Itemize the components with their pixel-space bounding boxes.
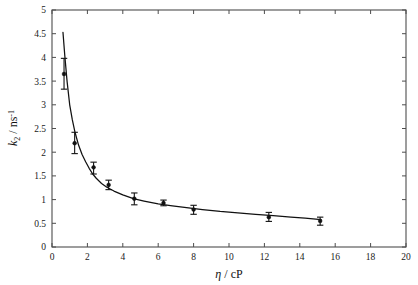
x-axis-label: η / cP [215, 267, 243, 281]
viscosity-rate-scatter-chart: 02468101214161820 00.511.522.533.544.55 … [0, 0, 418, 285]
data-point-marker [162, 201, 166, 205]
data-point-marker [107, 183, 111, 187]
data-point-marker [132, 197, 136, 201]
x-tick-label: 12 [260, 252, 270, 262]
data-point-marker [192, 208, 196, 212]
x-tick-label: 4 [120, 252, 125, 262]
data-point-marker [318, 219, 322, 223]
y-tick-label: 3 [41, 100, 46, 110]
y-tick-label: 0.5 [34, 219, 46, 229]
y-tick-label: 0 [41, 242, 46, 252]
y-tick-label: 2 [41, 148, 46, 158]
data-point-marker [62, 72, 66, 76]
data-point-marker [267, 215, 271, 219]
chart-background [0, 0, 418, 285]
x-tick-label: 20 [401, 252, 411, 262]
x-axis-label-text: η / cP [215, 267, 243, 281]
x-tick-label: 18 [366, 252, 376, 262]
x-tick-label: 8 [191, 252, 196, 262]
y-tick-label: 1.5 [34, 171, 46, 181]
y-tick-label: 3.5 [34, 77, 46, 87]
x-tick-label: 14 [295, 252, 305, 262]
y-tick-label: 4.5 [34, 29, 46, 39]
y-tick-label: 5 [41, 5, 46, 15]
y-tick-label: 4 [41, 53, 46, 63]
x-tick-label: 10 [224, 252, 234, 262]
x-tick-label: 2 [85, 252, 90, 262]
x-tick-label: 16 [330, 252, 340, 262]
y-tick-label: 2.5 [34, 124, 46, 134]
data-point-marker [73, 141, 77, 145]
chart-figure: 02468101214161820 00.511.522.533.544.55 … [0, 0, 418, 285]
x-tick-label: 0 [50, 252, 55, 262]
y-tick-label: 1 [41, 195, 46, 205]
x-tick-label: 6 [156, 252, 161, 262]
data-point-marker [92, 165, 96, 169]
